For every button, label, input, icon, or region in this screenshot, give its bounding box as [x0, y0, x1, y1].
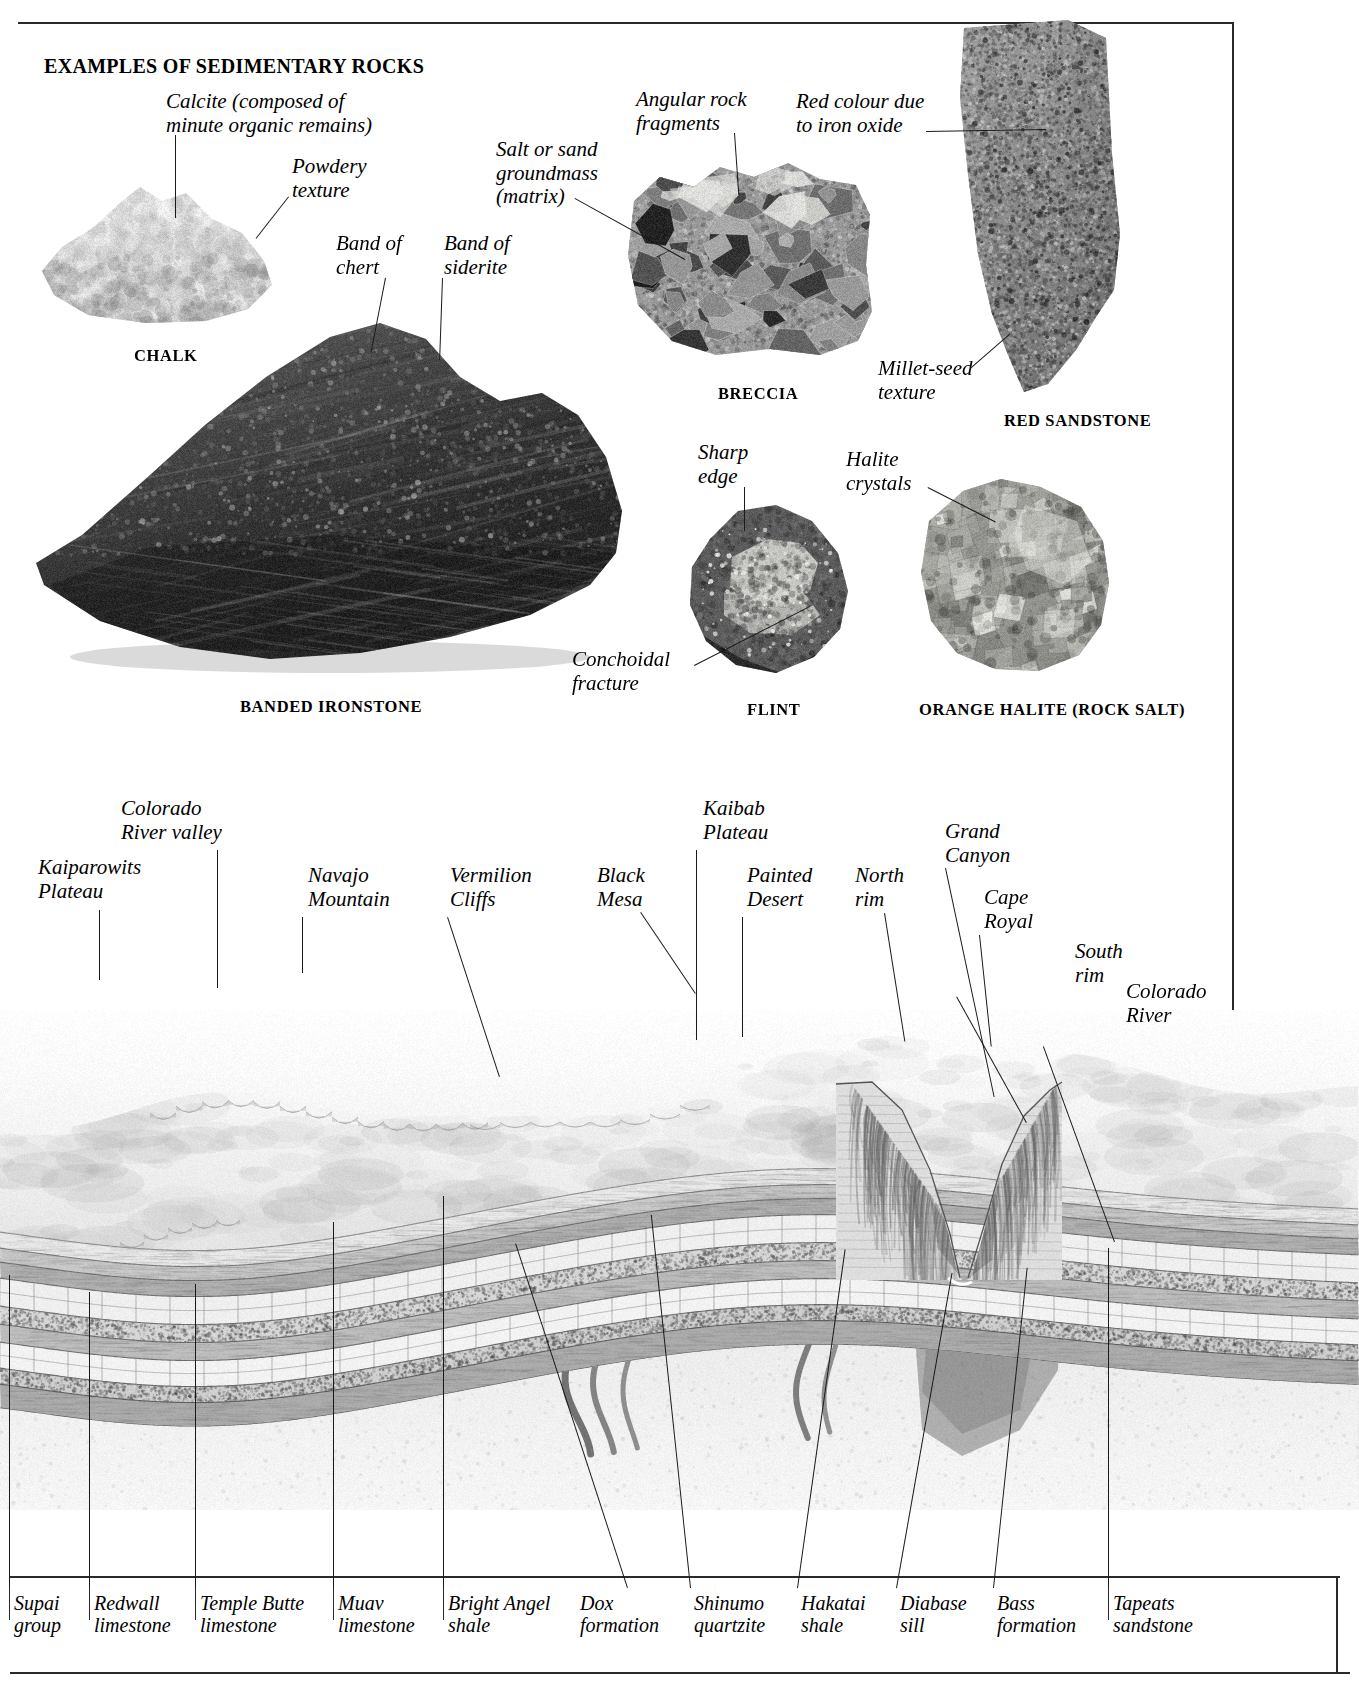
label-cape-royal: Cape Royal: [984, 886, 1033, 933]
strata-label-bright-angel-shale: Bright Angel shale: [448, 1592, 550, 1637]
caption-banded-ironstone: BANDED IRONSTONE: [240, 697, 422, 717]
strata-label-dox-formation: Dox formation: [580, 1592, 659, 1637]
leader-kaiparowits-plateau: [99, 910, 100, 980]
caption-flint: FLINT: [747, 700, 800, 720]
label-grand-canyon: Grand Canyon: [945, 820, 1010, 867]
caption-breccia: BRECCIA: [718, 384, 798, 404]
strata-tick-redwall-limestone: [89, 1588, 90, 1620]
strata-label-temple-butte-limestone: Temple Butte limestone: [200, 1592, 304, 1637]
leader-redwall-limestone: [89, 1292, 90, 1588]
strata-label-supai-group: Supai group: [14, 1592, 61, 1637]
caption-red-sandstone: RED SANDSTONE: [1004, 411, 1151, 431]
right-rule-lower: [1336, 1576, 1338, 1674]
leader-black-mesa: [640, 912, 696, 994]
annotation-halite-crystals: Halite crystals: [846, 448, 911, 495]
label-kaibab-plateau: Kaibab Plateau: [703, 797, 768, 844]
annotation-calcite: Calcite (composed of minute organic rema…: [166, 90, 372, 137]
label-south-rim: South rim: [1075, 940, 1123, 987]
leader-kaibab-plateau: [696, 850, 697, 1040]
strata-label-redwall-limestone: Redwall limestone: [94, 1592, 171, 1637]
annotation-angular-rock-fragments: Angular rock fragments: [636, 88, 747, 135]
right-rule-upper: [1232, 22, 1234, 1082]
leader-muav-limestone: [333, 1222, 334, 1588]
flint-specimen-image: [672, 495, 862, 680]
orange-halite-specimen-image: [905, 465, 1125, 685]
strata-label-diabase-sill: Diabase sill: [900, 1592, 967, 1637]
label-kaiparowits-plateau: Kaiparowits Plateau: [38, 856, 141, 903]
red-sandstone-specimen-image: [948, 14, 1128, 396]
annotation-band-of-siderite: Band of siderite: [444, 232, 510, 279]
strata-label-shinumo-quartzite: Shinumo quartzite: [694, 1592, 765, 1637]
annotation-iron-oxide: Red colour due to iron oxide: [796, 90, 924, 137]
label-north-rim: North rim: [855, 864, 904, 911]
label-black-mesa: Black Mesa: [597, 864, 645, 911]
caption-orange-halite: ORANGE HALITE (ROCK SALT): [919, 700, 1185, 720]
leader-tapeats-sandstone: [1108, 1248, 1109, 1588]
caption-chalk: CHALK: [134, 346, 198, 366]
leader-navajo-mountain: [302, 917, 303, 973]
strata-label-muav-limestone: Muav limestone: [338, 1592, 415, 1637]
leader-sharp-edge: [744, 487, 745, 531]
leader-calcite: [175, 135, 176, 218]
strata-tick-bright-angel-shale: [443, 1588, 444, 1620]
page-title: EXAMPLES OF SEDIMENTARY ROCKS: [44, 55, 424, 78]
strata-tick-supai-group: [9, 1588, 10, 1620]
strata-label-hakatai-shale: Hakatai shale: [801, 1592, 865, 1637]
grand-canyon-cross-section: [0, 1010, 1359, 1510]
label-painted-desert: Painted Desert: [747, 864, 812, 911]
annotation-powdery-texture: Powdery texture: [292, 155, 367, 202]
leader-bright-angel-shale: [443, 1196, 444, 1588]
label-navajo-mountain: Navajo Mountain: [308, 864, 390, 911]
leader-colorado-river-valley: [217, 850, 218, 988]
banded-ironstone-specimen-image: [30, 285, 630, 685]
strata-rule: [10, 1576, 1340, 1578]
strata-tick-muav-limestone: [333, 1588, 334, 1620]
breccia-specimen-image: [620, 155, 880, 360]
strata-label-tapeats-sandstone: Tapeats sandstone: [1113, 1592, 1193, 1637]
annotation-millet-seed-texture: Millet-seed texture: [878, 357, 972, 404]
strata-tick-temple-butte-limestone: [195, 1588, 196, 1620]
strata-label-bass-formation: Bass formation: [997, 1592, 1076, 1637]
document-page: EXAMPLES OF SEDIMENTARY ROCKS Calcite (c…: [0, 0, 1359, 1686]
label-vermilion-cliffs: Vermilion Cliffs: [450, 864, 532, 911]
annotation-conchoidal-fracture: Conchoidal fracture: [572, 648, 670, 695]
leader-supai-group: [9, 1275, 10, 1588]
annotation-band-of-chert: Band of chert: [336, 232, 402, 279]
bottom-rule: [10, 1672, 1350, 1674]
leader-painted-desert: [742, 917, 743, 1037]
label-colorado-river-valley: Colorado River valley: [121, 797, 222, 844]
leader-temple-butte-limestone: [195, 1284, 196, 1588]
strata-tick-tapeats-sandstone: [1108, 1588, 1109, 1620]
label-colorado-river: Colorado River: [1126, 980, 1207, 1027]
annotation-matrix: Salt or sand groundmass (matrix): [496, 138, 598, 209]
annotation-sharp-edge: Sharp edge: [698, 441, 748, 488]
